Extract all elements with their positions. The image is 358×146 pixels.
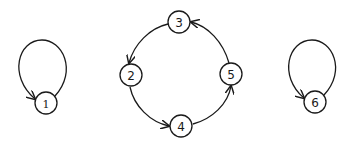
edge-4-to-5 xyxy=(193,86,231,124)
node-4: 4 xyxy=(170,115,192,137)
edge-5-to-3 xyxy=(191,22,229,63)
edge-2-to-4 xyxy=(130,87,169,126)
cycle-diagram: 1 2 3 4 5 6 xyxy=(0,0,358,146)
node-label: 6 xyxy=(311,96,319,110)
edge-3-to-2 xyxy=(129,24,168,63)
edge-6-to-6 xyxy=(289,40,336,98)
node-label: 3 xyxy=(175,16,183,30)
node-3: 3 xyxy=(168,11,190,33)
edge-1-to-1 xyxy=(19,40,66,99)
node-label: 1 xyxy=(43,98,50,111)
node-label: 5 xyxy=(227,68,235,82)
node-1: 1 xyxy=(35,92,57,114)
node-2: 2 xyxy=(120,64,142,86)
node-6: 6 xyxy=(304,91,326,113)
node-label: 2 xyxy=(127,69,135,83)
node-label: 4 xyxy=(177,120,185,134)
node-5: 5 xyxy=(220,63,242,85)
